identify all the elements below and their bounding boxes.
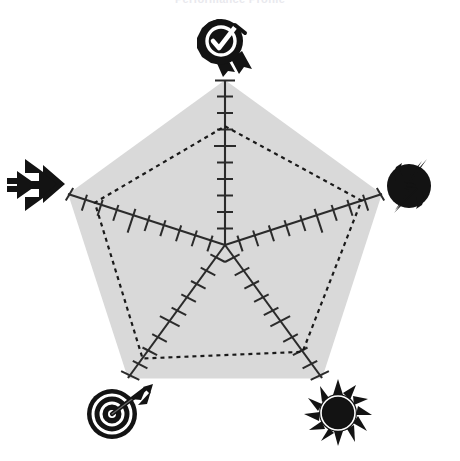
fast-forward-arrows-icon — [3, 151, 77, 221]
radar-chart: Performance Profile — [0, 0, 460, 461]
axis-icon-power[interactable] — [372, 151, 446, 221]
axis-icon-brightness[interactable] — [301, 377, 375, 447]
award-check-seal-icon — [188, 13, 262, 83]
axis-icon-accuracy[interactable] — [81, 377, 155, 447]
target-arrow-icon — [81, 377, 155, 447]
axis-icon-quality[interactable] — [188, 13, 262, 83]
axis-icon-speed[interactable] — [3, 151, 77, 221]
sunburst-icon — [301, 377, 375, 447]
lightning-bolt-icon — [372, 151, 446, 221]
